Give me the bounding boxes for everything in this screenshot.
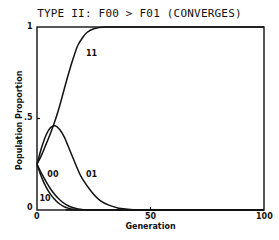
series-layer: [37, 27, 264, 210]
curve-label-10: 10: [39, 194, 50, 203]
curve-label-01: 01: [86, 170, 97, 179]
y-tick-label-half: .5: [24, 113, 33, 122]
y-tick-label-1: 1: [27, 22, 33, 31]
series-line-11: [37, 27, 264, 164]
chart-title: TYPE II: F00 > F01 (CONVERGES): [0, 7, 279, 20]
series-line-00: [37, 164, 264, 210]
x-tick-label-50: 50: [145, 212, 156, 221]
x-axis-label: Generation: [37, 222, 264, 231]
series-line-10: [37, 164, 264, 210]
curve-label-11: 11: [86, 49, 97, 58]
plot-frame: [37, 27, 264, 210]
curve-label-00: 00: [47, 170, 58, 179]
y-axis-label: Population Proportion: [15, 66, 24, 176]
chart-canvas: [0, 0, 279, 240]
y-tick-label-0: 0: [27, 203, 33, 212]
x-tick-label-100: 100: [256, 212, 273, 221]
series-line-01: [37, 126, 264, 210]
x-tick-label-0: 0: [34, 212, 40, 221]
